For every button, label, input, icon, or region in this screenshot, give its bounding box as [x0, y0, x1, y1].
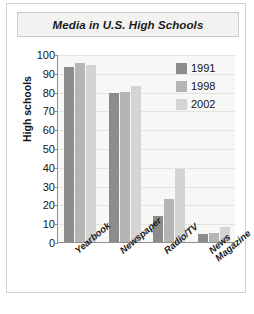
bar — [64, 67, 74, 242]
bar — [164, 199, 174, 242]
y-axis-title: High schools — [21, 64, 33, 154]
y-axis-tick — [54, 243, 58, 244]
legend-swatch-icon — [176, 99, 187, 110]
chart-title-bar: Media in U.S. High Schools — [17, 12, 239, 37]
bar — [198, 234, 208, 242]
bar — [109, 93, 119, 242]
chart-legend: 199119982002 — [176, 60, 234, 114]
legend-swatch-icon — [176, 81, 187, 92]
y-axis-tick-label: 100 — [37, 49, 55, 61]
bar — [75, 63, 85, 242]
bar — [120, 92, 130, 242]
bar-group — [103, 55, 148, 242]
legend-item: 1998 — [176, 78, 234, 94]
chart-figure: Media in U.S. High Schools 0102030405060… — [0, 0, 254, 314]
legend-label: 2002 — [191, 98, 215, 110]
legend-label: 1998 — [191, 80, 215, 92]
legend-label: 1991 — [191, 62, 215, 74]
legend-item: 2002 — [176, 96, 234, 112]
bar-group — [58, 55, 103, 242]
legend-item: 1991 — [176, 60, 234, 76]
legend-swatch-icon — [176, 63, 187, 74]
chart-title: Media in U.S. High Schools — [53, 19, 204, 31]
bar — [131, 86, 141, 242]
bar — [86, 65, 96, 242]
